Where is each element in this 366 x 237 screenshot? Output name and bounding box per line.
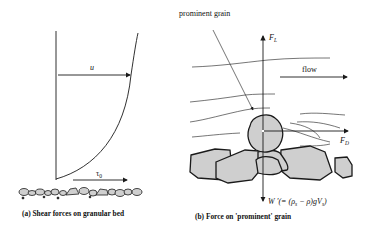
caption-b: (b) Force on 'prominent' grain	[195, 213, 291, 220]
velocity-profile-curve	[56, 33, 138, 179]
lift-force-label: FL	[269, 34, 277, 44]
weight-text-3: )	[324, 197, 327, 206]
weight-text-2: − ρ)gV	[297, 197, 322, 206]
panel-a-shear-diagram	[19, 31, 142, 199]
grain-centroid	[262, 130, 264, 132]
bed-grains	[190, 115, 352, 183]
panel-b-grain-forces	[190, 30, 352, 201]
flow-label: flow	[302, 66, 317, 74]
tau-subscript: 0	[99, 173, 102, 179]
caption-a: (a) Shear forces on granular bed	[22, 210, 124, 217]
prominent-grain-label: prominent grain	[179, 10, 230, 18]
weight-force-label: W ′(= (ρs − ρ)gVs)	[268, 198, 327, 208]
shear-stress-label: τ0	[96, 170, 102, 180]
velocity-label: u	[90, 64, 94, 72]
diagram: u τ0 (a) Shear forces on granular bed pr…	[0, 0, 366, 237]
weight-text-1: W ′(= (ρ	[268, 197, 295, 206]
drag-subscript: D	[345, 140, 349, 146]
drag-force-label: FD	[340, 137, 349, 147]
lift-subscript: L	[274, 37, 277, 43]
granular-bed	[19, 188, 142, 200]
grain-leader-line	[213, 30, 253, 110]
prominent-grain	[248, 115, 283, 152]
